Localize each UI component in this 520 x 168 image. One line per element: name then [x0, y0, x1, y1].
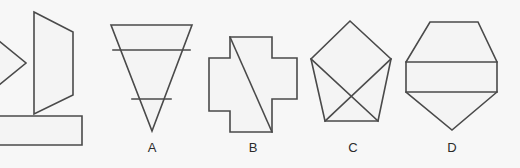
cropped-quadrilateral-outline: [34, 12, 73, 114]
cross-with-diagonal-outline: [209, 37, 297, 132]
pentagon-with-crossed-diagonals: [311, 21, 391, 121]
shape-label-b: B: [243, 141, 263, 155]
shape-label-a: A: [142, 141, 162, 155]
cropped-triangle: [0, 14, 26, 112]
cropped-triangle-outline: [0, 14, 26, 112]
shape-label-c: C: [343, 141, 363, 155]
cropped-rectangle: [0, 116, 82, 145]
cropped-rectangle-outline: [0, 116, 82, 145]
hexagon-with-bands: [406, 22, 497, 130]
hexagon-with-bands-outline: [406, 22, 497, 130]
shape-label-d: D: [442, 141, 462, 155]
cropped-quadrilateral: [34, 12, 73, 114]
inverted-triangle-with-bands: [111, 25, 192, 131]
geometric-shapes-figure: ABCD: [0, 0, 520, 168]
inverted-triangle-with-bands-outline: [111, 25, 192, 131]
cross-with-diagonal: [209, 37, 297, 132]
